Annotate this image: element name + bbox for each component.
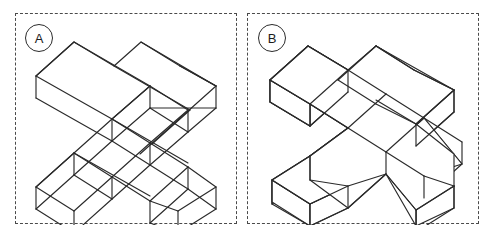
panel-b-label: B <box>268 31 277 46</box>
cross-wireframe-shape <box>36 42 216 225</box>
figure-canvas: A <box>0 0 494 239</box>
panel-b-label-badge: B <box>258 24 286 52</box>
panel-a-label-badge: A <box>25 24 53 52</box>
panel-a-label: A <box>35 31 44 46</box>
cross-solid-shape <box>270 46 462 225</box>
